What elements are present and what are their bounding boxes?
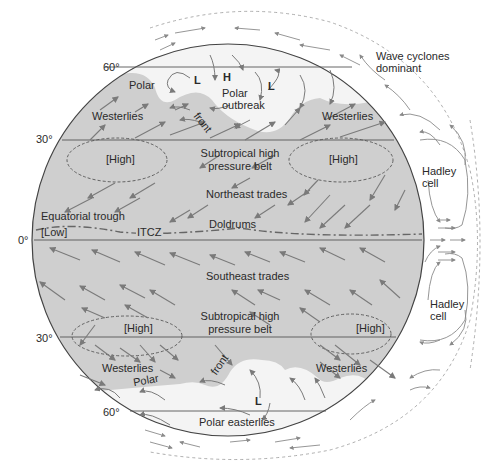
- label-westerlies-nw: Westerlies: [92, 110, 143, 122]
- label-polar-north: Polar: [129, 79, 155, 91]
- label-wave-cyclones-1: Wave cyclones: [376, 50, 450, 62]
- lat-label-60n: 60°: [103, 61, 120, 73]
- label-subtropical-n-2: pressure belt: [190, 160, 290, 172]
- label-subtropical-s-1: Subtropical high: [190, 310, 290, 322]
- north-polar-airmass: [0, 0, 497, 132]
- label-low-north-1: L: [194, 74, 201, 86]
- label-subtropical-n-1: Subtropical high: [190, 147, 290, 159]
- label-high-nw: [High]: [106, 153, 135, 165]
- circulation-diagram: 60° 30° 0° 30° 60° Polar L H L Polar out…: [0, 0, 497, 463]
- lat-label-equator: 0°: [18, 234, 29, 246]
- label-low-south: L: [255, 395, 262, 407]
- label-hadley-north-2: cell: [422, 177, 439, 189]
- label-polar-outbreak-1: Polar: [222, 87, 248, 99]
- globe-graphic: [0, 0, 497, 463]
- label-subtropical-s-2: pressure belt: [190, 323, 290, 335]
- label-hadley-south-2: cell: [430, 310, 447, 322]
- label-high-se: [High]: [356, 322, 385, 334]
- label-westerlies-sw: Westerlies: [102, 362, 153, 374]
- label-high-ne: [High]: [329, 153, 358, 165]
- lat-label-60s: 60°: [103, 406, 120, 418]
- label-low-north-2: L: [268, 80, 275, 92]
- label-westerlies-ne: Westerlies: [322, 110, 373, 122]
- label-high-north: H: [223, 71, 231, 83]
- label-high-sw: [High]: [124, 322, 153, 334]
- label-polar-easterlies: Polar easterlies: [199, 416, 275, 428]
- label-westerlies-se: Westerlies: [316, 362, 367, 374]
- label-itcz: ITCZ: [136, 226, 162, 238]
- lat-label-30s: 30°: [36, 332, 53, 344]
- label-southeast-trades: Southeast trades: [206, 270, 289, 282]
- label-northeast-trades: Northeast trades: [206, 188, 287, 200]
- label-hadley-north-1: Hadley: [422, 165, 456, 177]
- lat-label-30n: 30°: [36, 133, 53, 145]
- label-doldrums: Doldrums: [209, 218, 256, 230]
- label-equatorial-trough: Equatorial trough: [41, 210, 125, 222]
- hadley-dashed-envelope: [470, 120, 480, 370]
- label-wave-cyclones-2: dominant: [376, 62, 421, 74]
- label-polar-outbreak-2: outbreak: [222, 99, 265, 111]
- label-low-equator: [Low]: [41, 226, 67, 238]
- label-hadley-south-1: Hadley: [430, 298, 464, 310]
